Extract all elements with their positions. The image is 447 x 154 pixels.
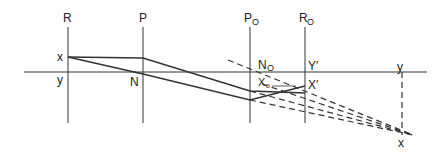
label-XO-sub: o (266, 82, 270, 89)
label-N: N (130, 75, 139, 89)
dashed-ray-4 (262, 84, 413, 135)
label-NO: N (258, 58, 267, 72)
label-X-prime: X′ (308, 78, 319, 92)
label-RO-sub: O (307, 17, 314, 27)
dashed-ray-3 (250, 100, 413, 135)
optics-diagram: R P P O R O x y N N O X o Y′ X′ y x (0, 0, 447, 154)
label-R: R (63, 11, 72, 25)
dashed-ray-2 (250, 91, 413, 135)
label-PO-sub: O (252, 17, 259, 27)
label-x-left: x (57, 50, 63, 64)
label-P: P (139, 11, 147, 25)
label-y-left: y (57, 73, 63, 87)
label-y-right: y (397, 60, 403, 74)
label-NO-sub: O (267, 63, 274, 73)
label-x-right: x (398, 136, 404, 150)
label-Y-prime: Y′ (308, 59, 319, 73)
dashed-ray-1 (228, 60, 413, 135)
label-XO: X (258, 76, 266, 88)
label-PO: P (244, 11, 252, 25)
